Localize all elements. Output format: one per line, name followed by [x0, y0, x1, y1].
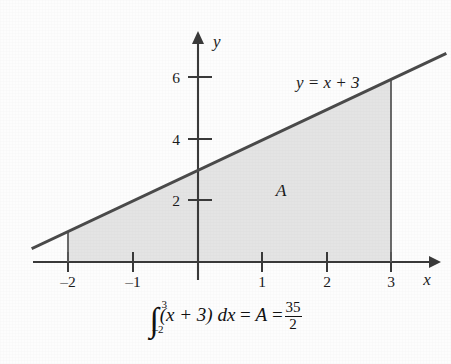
x-axis-label: x: [422, 270, 431, 289]
shaded-region-A: [68, 80, 391, 262]
fraction-denominator: 2: [285, 317, 302, 333]
figure-container: –2 –1 1 2 3 2 4 6 x y y = x + 3 A ∫ 3 –2…: [0, 0, 451, 364]
area-symbol-A: A: [256, 304, 268, 325]
fraction-35-over-2: 352: [285, 300, 302, 333]
y-tick-label-4: 4: [172, 131, 180, 148]
differential-dx: dx: [217, 304, 235, 325]
region-label-A: A: [275, 180, 287, 200]
curve-equation-label: y = x + 3: [294, 73, 360, 92]
equals-sign-2: =: [272, 304, 283, 325]
caption-formula: ∫ 3 –2 (x + 3) dx = A =352: [0, 300, 451, 334]
equals-sign-1: =: [240, 304, 251, 325]
x-tick-label--2: –2: [59, 273, 76, 290]
fraction-numerator: 35: [285, 300, 302, 317]
x-tick-label-1: 1: [258, 273, 266, 290]
integrand-expression: (x + 3): [160, 304, 213, 325]
x-axis-arrowhead: [429, 256, 441, 268]
y-tick-label-2: 2: [172, 192, 180, 209]
y-axis-arrowhead: [192, 31, 204, 44]
integral-upper-limit: 3: [161, 298, 167, 310]
integral-operator: ∫ 3 –2: [149, 300, 158, 334]
x-tick-label-2: 2: [323, 273, 331, 290]
x-tick-label--1: –1: [124, 273, 141, 290]
integral-lower-limit: –2: [152, 323, 163, 335]
x-tick-label-3: 3: [387, 273, 395, 290]
y-axis-label: y: [211, 32, 221, 51]
y-tick-label-6: 6: [172, 69, 180, 86]
